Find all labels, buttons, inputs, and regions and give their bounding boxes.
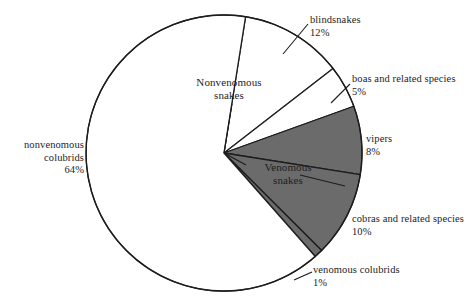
slice-label-vipers: vipers 8%: [366, 133, 392, 158]
leader-line-venomous-colubrids: [294, 272, 312, 280]
slice-label-nonvenomous-colubrids-line2: colubrids: [6, 152, 84, 165]
slice-label-blindsnakes-percent: 12%: [310, 27, 361, 40]
group-label-venomous-line2: snakes: [246, 174, 330, 187]
slice-label-venomous-colubrids-name: venomous colubrids: [313, 264, 400, 275]
slice-label-cobras-name: cobras and related species: [352, 213, 464, 224]
slice-label-boas-name: boas and related species: [352, 73, 456, 84]
slice-label-blindsnakes-name: blindsnakes: [310, 14, 361, 25]
slice-label-cobras: cobras and related species 10%: [352, 213, 464, 238]
slice-label-nonvenomous-colubrids-line1: nonvenomous: [24, 139, 84, 150]
slice-label-nonvenomous-colubrids: nonvenomous colubrids 64%: [6, 139, 84, 177]
slice-label-vipers-percent: 8%: [366, 146, 392, 159]
slice-label-blindsnakes: blindsnakes 12%: [310, 14, 361, 39]
pie-chart-figure: blindsnakes 12% boas and related species…: [0, 0, 475, 308]
group-label-venomous-line1: Venomous: [264, 161, 311, 173]
slice-label-cobras-percent: 10%: [352, 226, 464, 239]
group-label-nonvenomous-snakes: Nonvenomous snakes: [181, 76, 277, 102]
group-label-nonvenomous-line2: snakes: [181, 89, 277, 102]
slice-label-venomous-colubrids: venomous colubrids 1%: [313, 264, 400, 289]
slice-label-boas-percent: 5%: [352, 86, 456, 99]
slice-label-boas: boas and related species 5%: [352, 73, 456, 98]
slice-label-nonvenomous-colubrids-percent: 64%: [6, 164, 84, 177]
slice-label-venomous-colubrids-percent: 1%: [313, 277, 400, 290]
group-label-venomous-snakes: Venomous snakes: [246, 161, 330, 187]
group-label-nonvenomous-line1: Nonvenomous: [196, 76, 261, 88]
slice-label-vipers-name: vipers: [366, 133, 392, 144]
